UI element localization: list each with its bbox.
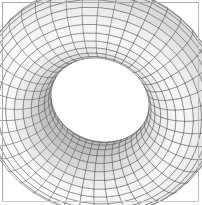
torus-wireframe-plot [0, 0, 202, 205]
figure-panel: Torus wireframe surface plot [0, 0, 202, 205]
artifact-speck [12, 168, 14, 170]
